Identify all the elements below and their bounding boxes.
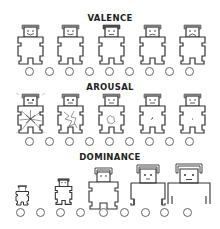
dominance-option-6[interactable] <box>120 208 129 217</box>
valence-option-7[interactable] <box>145 67 154 76</box>
manikin-dominance-3 <box>89 168 118 209</box>
valence-option-4[interactable] <box>85 67 94 76</box>
dominance-option-5[interactable] <box>99 208 108 217</box>
manikin-arousal-3 <box>99 94 124 133</box>
manikin-arousal-5 <box>180 94 205 133</box>
valence-option-9[interactable] <box>185 67 194 76</box>
manikin-dominance-4 <box>131 165 165 205</box>
arousal-option-3[interactable] <box>65 137 74 146</box>
dominance-option-2[interactable] <box>36 208 45 217</box>
dominance-option-4[interactable] <box>76 208 85 217</box>
manikin-arousal-1 <box>16 93 45 133</box>
valence-option-3[interactable] <box>65 67 74 76</box>
manikin-dominance-5 <box>168 164 210 204</box>
arousal-option-2[interactable] <box>45 137 54 146</box>
dominance-option-7[interactable] <box>141 208 150 217</box>
arousal-option-8[interactable] <box>165 137 174 146</box>
manikin-arousal-2 <box>58 94 83 133</box>
dominance-option-3[interactable] <box>56 208 65 217</box>
arousal-option-4[interactable] <box>85 137 94 146</box>
valence-option-5[interactable] <box>105 67 114 76</box>
valence-option-1[interactable] <box>25 67 34 76</box>
manikin-dominance-1 <box>16 186 29 206</box>
valence-manikins <box>0 24 220 68</box>
manikin-valence-5 <box>180 25 205 64</box>
dominance-title: DOMINANCE <box>0 152 220 162</box>
arousal-option-6[interactable] <box>125 137 134 146</box>
manikin-valence-1 <box>18 25 43 64</box>
manikin-valence-4 <box>140 25 165 64</box>
arousal-option-5[interactable] <box>105 137 114 146</box>
manikin-valence-3 <box>99 25 124 64</box>
valence-option-8[interactable] <box>165 67 174 76</box>
valence-title: VALENCE <box>0 13 220 23</box>
dominance-option-1[interactable] <box>16 208 25 217</box>
dominance-manikins <box>0 163 220 213</box>
arousal-option-1[interactable] <box>25 137 34 146</box>
valence-option-2[interactable] <box>45 67 54 76</box>
manikin-dominance-2 <box>55 179 72 205</box>
manikin-valence-2 <box>58 25 83 64</box>
arousal-option-7[interactable] <box>145 137 154 146</box>
manikin-arousal-4 <box>140 94 165 133</box>
dominance-option-9[interactable] <box>183 208 192 217</box>
valence-option-6[interactable] <box>125 67 134 76</box>
arousal-manikins <box>0 93 220 137</box>
dominance-option-8[interactable] <box>160 208 169 217</box>
arousal-option-9[interactable] <box>185 137 194 146</box>
arousal-title: AROUSAL <box>0 82 220 92</box>
